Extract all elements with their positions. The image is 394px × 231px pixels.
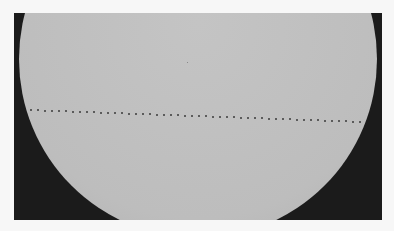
transit-dot (72, 111, 74, 113)
transit-dot (240, 117, 242, 119)
transit-dot (331, 120, 333, 122)
transit-dot (30, 109, 32, 111)
transit-dot (359, 121, 361, 123)
transit-dot (191, 115, 193, 117)
transit-dot (107, 112, 109, 114)
transit-dot (268, 118, 270, 120)
photo-frame (14, 13, 382, 220)
transit-dot (184, 115, 186, 117)
sunspot (187, 62, 188, 63)
transit-dot (58, 110, 60, 112)
transit-dot (86, 111, 88, 113)
transit-dot (212, 116, 214, 118)
transit-dot (79, 111, 81, 113)
transit-dot (156, 114, 158, 116)
transit-dot (163, 114, 165, 116)
transit-dot (100, 112, 102, 114)
transit-dot (135, 113, 137, 115)
transit-dot (51, 110, 53, 112)
transit-dot (296, 119, 298, 121)
transit-dot (219, 116, 221, 118)
transit-dot (128, 113, 130, 115)
transit-dot (275, 118, 277, 120)
transit-dot (324, 120, 326, 122)
transit-dot (303, 119, 305, 121)
transit-dot (44, 110, 46, 112)
transit-dot (247, 117, 249, 119)
transit-dot (352, 121, 354, 123)
